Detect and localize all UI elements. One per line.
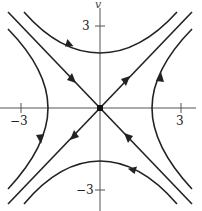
y-axis-label: v bbox=[95, 0, 102, 11]
phase-portrait: v 3 −3 −3 3 bbox=[0, 0, 202, 211]
y-tick-label-pos3: 3 bbox=[82, 19, 90, 33]
y-tick-label-neg3: −3 bbox=[76, 183, 94, 197]
left-hyperbola bbox=[8, 29, 48, 189]
x-tick-label-pos3: 3 bbox=[176, 114, 184, 128]
arrow-icon-bottom-hyperbola bbox=[127, 164, 137, 174]
saddle-point bbox=[97, 105, 103, 111]
x-tick-label-neg3: −3 bbox=[10, 114, 28, 128]
right-hyperbola bbox=[152, 29, 192, 189]
